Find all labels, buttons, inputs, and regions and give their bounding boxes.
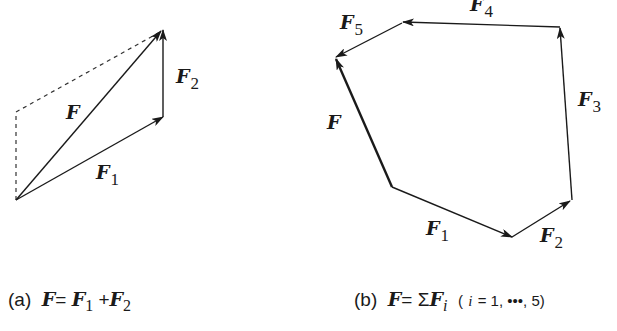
vector-f3-arrow xyxy=(560,28,572,200)
vector-diagram xyxy=(0,0,617,331)
caption-a-tag: (a) xyxy=(8,289,31,310)
label-b-f4: F4 xyxy=(470,0,493,20)
label-b-f: F xyxy=(327,113,341,132)
figure-a-parallelogram xyxy=(16,30,163,200)
figure-b-polygon xyxy=(336,22,572,237)
dashed-side-diagonal xyxy=(16,32,160,112)
vector-f4-arrow xyxy=(403,22,560,27)
caption-a: (a) F= F1 +F2 xyxy=(8,288,131,315)
caption-b: (b) F= ΣFi ( i = 1, •••, 5) xyxy=(354,288,545,315)
label-b-f3: F3 xyxy=(578,90,601,115)
caption-b-tag: (b) xyxy=(354,289,377,310)
label-a-f1: F1 xyxy=(96,163,119,188)
label-b-f5: F5 xyxy=(340,13,363,38)
resultant-f-arrow xyxy=(336,59,392,187)
label-b-f2: F2 xyxy=(540,226,563,251)
vector-f1-arrow xyxy=(16,117,163,200)
vector-f1-arrow xyxy=(392,187,512,237)
label-a-f: F xyxy=(66,103,80,122)
label-b-f1: F1 xyxy=(426,219,449,244)
resultant-f-arrow xyxy=(16,31,161,200)
label-a-f2: F2 xyxy=(176,67,199,92)
